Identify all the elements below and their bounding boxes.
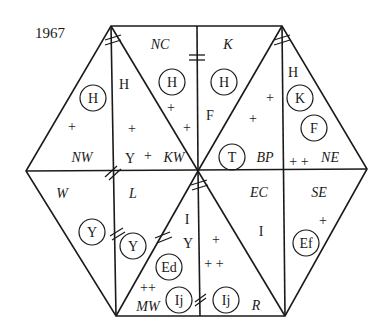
plus-mark: + (183, 120, 191, 135)
region-label-k: K (222, 37, 233, 52)
svg-text:H: H (167, 75, 177, 90)
circled-symbol-t: T (219, 144, 245, 170)
svg-text:Y: Y (128, 239, 138, 254)
region-label-nc: NC (150, 37, 170, 52)
svg-text:Y: Y (87, 225, 97, 240)
circled-symbol-k: K (287, 85, 313, 111)
circled-symbol-ij: Ij (213, 287, 239, 313)
svg-text:F: F (310, 121, 318, 136)
symbol-h: H (119, 77, 129, 92)
svg-text:Ij: Ij (175, 293, 184, 308)
circled-symbol-f: F (301, 115, 327, 141)
region-label-r: R (251, 298, 261, 313)
symbol-i: I (259, 224, 264, 239)
svg-text:H: H (88, 91, 98, 106)
region-label-se: SE (311, 185, 327, 200)
circled-symbol-h: H (80, 85, 106, 111)
region-label-bp: BP (256, 150, 274, 165)
plus-mark-double: ++ (140, 280, 156, 295)
circled-symbol-ij: Ij (166, 287, 192, 313)
plus-mark: + (249, 111, 257, 126)
circled-symbol-y: Y (79, 219, 105, 245)
circled-symbol-h: H (159, 69, 185, 95)
svg-text:H: H (219, 75, 229, 90)
svg-text:Ef: Ef (299, 236, 313, 251)
circled-symbol-ed: Ed (156, 254, 182, 280)
circled-symbol-ef: Ef (293, 230, 319, 256)
region-label-kw: KW (163, 150, 186, 165)
region-label-ec: EC (249, 185, 269, 200)
symbol-i: I (185, 212, 190, 227)
region-label-nw: NW (71, 150, 94, 165)
symbol-f: F (206, 108, 214, 123)
svg-text:T: T (228, 150, 237, 165)
symbol-y: Y (125, 151, 135, 166)
plus-mark: + (128, 121, 136, 136)
region-label-l: L (128, 186, 137, 201)
plus-mark: + (144, 148, 152, 163)
region-label-w: W (56, 186, 69, 201)
internal-lines (26, 26, 367, 316)
svg-text:K: K (295, 91, 305, 106)
symbol-y: Y (183, 236, 193, 251)
circled-symbol-h: H (211, 69, 237, 95)
svg-text:Ij: Ij (222, 293, 231, 308)
circled-symbols: H H H T K F Y Y Ed Ij Ij Ef (79, 69, 327, 313)
hexagon-diagram: 1967 NC K NW KW (0, 0, 389, 333)
year-label: 1967 (35, 25, 66, 41)
region-label-mw: MW (135, 299, 161, 314)
plus-mark: + (266, 90, 274, 105)
plus-mark: + (167, 100, 175, 115)
plus-mark-double: + + (204, 256, 223, 271)
plus-mark: + (212, 232, 220, 247)
plus-mark: + (68, 119, 76, 134)
circled-symbol-y: Y (120, 233, 146, 259)
plus-mark: + (319, 213, 327, 228)
svg-text:Ed: Ed (161, 260, 177, 275)
plus-mark-double: + + (289, 154, 308, 169)
symbol-h: H (288, 65, 298, 80)
region-label-ne: NE (320, 150, 339, 165)
